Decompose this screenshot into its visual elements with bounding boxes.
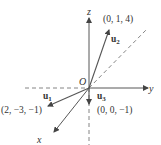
x-axis: [54, 88, 89, 132]
u1-label: u1: [43, 91, 52, 103]
vector-diagram: z y x O (0, 1, 4) u2 u1 (2, −3, −1) u3 (…: [0, 0, 161, 145]
dashed-axes: [25, 29, 147, 145]
u2-point-label: (0, 1, 4): [103, 14, 133, 25]
u1-point-label: (2, −3, −1): [1, 105, 42, 116]
u2-label: u2: [111, 34, 120, 46]
u3-point-label: (0, 0, −1): [97, 105, 132, 116]
vector-u2: [89, 30, 109, 88]
x-axis-label: x: [36, 134, 42, 145]
z-axis-label: z: [86, 6, 91, 17]
vector-u1: [48, 88, 89, 106]
y-axis-label: y: [148, 83, 154, 94]
origin-label: O: [79, 76, 86, 87]
u3-label: u3: [97, 91, 106, 103]
